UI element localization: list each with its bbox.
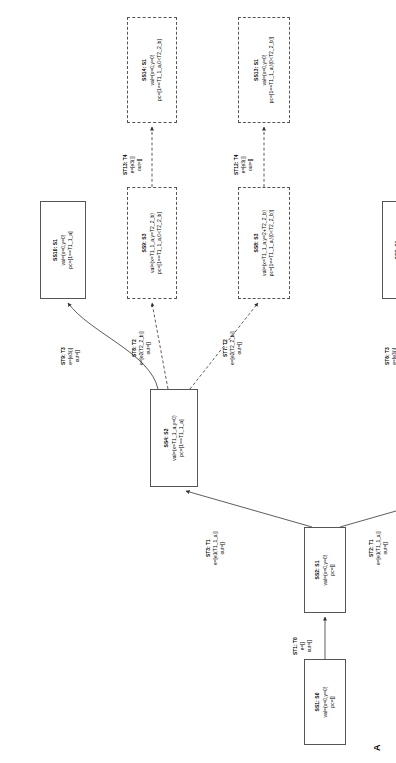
transition-label-line: out=[] — [136, 155, 143, 175]
state-node: SS2: S1val=(x=0,y=0)pc=[] — [304, 527, 346, 613]
transition-label-line: e=[e3()] — [240, 155, 247, 175]
transition-label: ST13: T4e=[e3()]out=[] — [122, 155, 143, 175]
transition-label-id: ST2: T1 — [368, 531, 375, 565]
transition-label-id: ST13: T4 — [122, 155, 129, 175]
state-node: SS4: S2val=(x=T1_1_a,y=0)pc=[1==T1_1_a] — [150, 389, 198, 487]
transition-label: ST12: T4e=[e3()]out=[] — [233, 155, 254, 175]
state-node-line: pc=[1==T1_1_a,0<T2_2_b] — [156, 39, 163, 101]
state-node-line: val=(x=0,y=0) — [322, 686, 329, 717]
transition-label-line: e=[e3()] — [129, 155, 136, 175]
state-node-line: pc=[1==T1_1_a,0<T2_2_b] — [156, 212, 163, 274]
state-node-id: SS1: S0 — [314, 693, 321, 712]
transition-label-line: out=[] — [74, 347, 81, 365]
state-node: SS10: S1val=(x=0,y=0)pc=[1==T1_1_a] — [40, 201, 86, 299]
state-node-id: SS14: S1 — [141, 59, 148, 81]
state-node-line: pc=[1==T1_1_a] — [67, 231, 74, 268]
transition-label-id: ST9: T3 — [60, 347, 67, 365]
edge-ss2-ss4 — [186, 491, 312, 527]
state-node-line: val=(x=0,y=0) — [60, 234, 67, 265]
transition-label-line: out=[] — [219, 531, 226, 565]
transition-label: ST3: T1e=[e1(T1_1_a)]out=[] — [205, 531, 226, 565]
transition-label-line: e=[e2(T2_2_b)] — [138, 331, 145, 365]
state-node-line: val=(x=T1_1_a,y=T2_2_b) — [149, 213, 156, 273]
transition-label-line: out=[] — [306, 637, 313, 655]
state-node-id: SS13: S1 — [253, 59, 260, 81]
transition-label: ST8: T2e=[e2(T2_2_b)]out=[] — [131, 331, 152, 365]
state-node: SS13: S1val=(x=0,y=0)pc=[1==T1_1_a,!(0<T… — [238, 17, 290, 123]
state-node-line: pc=[] — [329, 564, 336, 575]
state-node-line: pc=[1==T1_1_a,!(0<T2_2_b)] — [268, 210, 275, 277]
state-node: SS1: S0val=(x=0,y=0)pc=[] — [304, 659, 346, 745]
state-node-line: val=(x=T1_1_a,y=2+T2_2_b) — [261, 210, 268, 276]
state-node: SS7: S1val=(x=0,y=0)pc=[7==T1_1_a] — [382, 201, 396, 299]
state-node: SS9: S3val=(x=T1_1_a,y=T2_2_b)pc=[1==T1_… — [127, 187, 177, 299]
transition-label-id: ST8: T2 — [131, 331, 138, 365]
transition-label-line: out=[] — [382, 531, 389, 565]
edge-ss2-ss3 — [340, 491, 396, 527]
state-node-id: SS4: S2 — [163, 429, 170, 448]
state-node-line: val=(x=T1_1_a,y=0) — [171, 415, 178, 461]
transition-label-id: ST1: T0 — [292, 637, 299, 655]
symbolic-execution-tree-figure: SS1: S0val=(x=0,y=0)pc=[]SS2: S1val=(x=0… — [0, 0, 396, 763]
transition-label-line: e=[e3()] — [391, 347, 396, 365]
state-node: SS14: S1val=(x=0,y=0)pc=[1==T1_1_a,0<T2_… — [127, 17, 177, 123]
diagram-canvas: SS1: S0val=(x=0,y=0)pc=[]SS2: S1val=(x=0… — [0, 0, 396, 763]
state-node-id: SS2: S1 — [314, 561, 321, 580]
state-node-id: SS8: S3 — [253, 234, 260, 253]
state-node-id: SS10: S1 — [52, 239, 59, 261]
transition-label-line: e=[e3()] — [67, 347, 74, 365]
state-node-line: pc=[1==T1_1_a,!(0<T2_2_b)] — [268, 37, 275, 104]
transition-label-line: e=[] — [299, 637, 306, 655]
state-node-line: val=(x=0,y=0) — [261, 54, 268, 85]
state-node: SS8: S3val=(x=T1_1_a,y=2+T2_2_b)pc=[1==T… — [238, 187, 290, 299]
transition-label-line: out=[] — [145, 331, 152, 365]
transition-label-line: e=[e1(T1_1_a)] — [212, 531, 219, 565]
transition-label-line: out=[] — [247, 155, 254, 175]
transition-label-id: ST12: T4 — [233, 155, 240, 175]
state-node-id: SS9: S3 — [141, 234, 148, 253]
transition-label: ST6: T3e=[e3()]out=[] — [384, 347, 396, 365]
transition-label: ST1: T0e=[]out=[] — [292, 637, 313, 655]
transition-label: ST7: T2e=[e2(T2_2_b)]out=[] — [222, 331, 243, 365]
transition-label: ST9: T3e=[e3()]out=[] — [60, 347, 81, 365]
transition-label: ST2: T1e=[e1(T1_1_a)]out=[] — [368, 531, 389, 565]
state-node-line: pc=[1==T1_1_a] — [178, 419, 185, 456]
state-node-line: pc=[] — [329, 696, 336, 707]
edge-ss4-ss9 — [152, 303, 168, 389]
diagram-edges — [0, 0, 396, 763]
state-node-line: val=(x=0,y=0) — [322, 554, 329, 585]
transition-label-line: e=[e2(T2_2_b)] — [229, 331, 236, 365]
transition-label-id: ST3: T1 — [205, 531, 212, 565]
transition-label-line: out=[] — [236, 331, 243, 365]
panel-letter: A — [372, 745, 382, 752]
transition-label-id: ST6: T3 — [384, 347, 391, 365]
transition-label-line: e=[e1(T1_1_a)] — [375, 531, 382, 565]
state-node-line: val=(x=0,y=0) — [149, 54, 156, 85]
transition-label-id: ST7: T2 — [222, 331, 229, 365]
